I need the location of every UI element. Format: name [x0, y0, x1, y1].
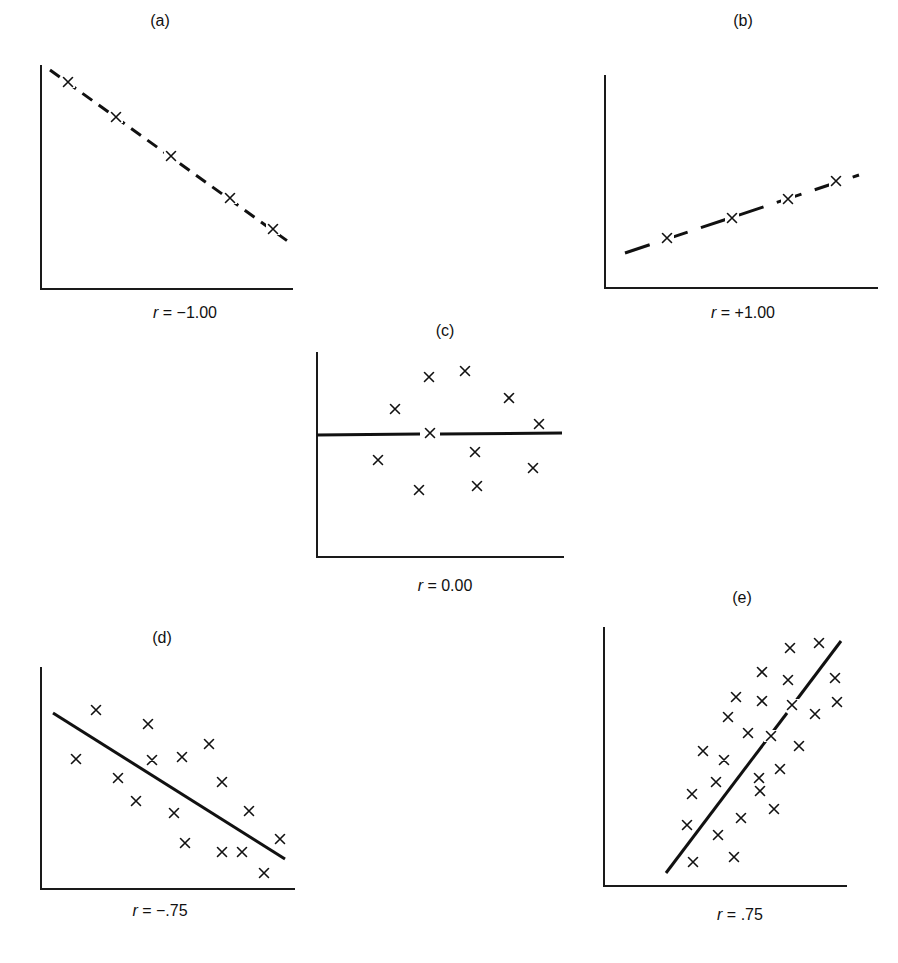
panel-d-fit-line — [53, 713, 285, 859]
panel-e-title: (e) — [732, 589, 752, 606]
panel-e: (e) r = .75 — [603, 589, 847, 923]
panel-c-r-label: r = 0.00 — [418, 577, 473, 594]
panel-c-title: (c) — [436, 322, 455, 339]
correlation-figure: (a) r = −1.00 (b) r = +1.00 (c) r = 0.00… — [0, 0, 898, 963]
panel-b-r-label: r = +1.00 — [711, 304, 775, 321]
panel-a: (a) r = −1.00 — [40, 12, 293, 321]
panel-a-r-label: r = −1.00 — [153, 304, 217, 321]
panel-e-r-label: r = .75 — [717, 906, 763, 923]
panel-a-title: (a) — [150, 12, 170, 29]
panel-c-fit-line-left — [317, 434, 420, 435]
panel-d: (d) r = −.75 — [40, 629, 295, 919]
panel-d-r-label: r = −.75 — [132, 902, 187, 919]
panel-c: (c) r = 0.00 — [316, 322, 564, 594]
panel-c-points — [371, 365, 546, 496]
panel-e-fit-line-upper — [795, 641, 841, 702]
panel-d-title: (d) — [152, 629, 172, 646]
panel-c-fit-line-right — [440, 433, 562, 434]
panel-b: (b) r = +1.00 — [604, 12, 878, 321]
panel-b-title: (b) — [733, 12, 753, 29]
